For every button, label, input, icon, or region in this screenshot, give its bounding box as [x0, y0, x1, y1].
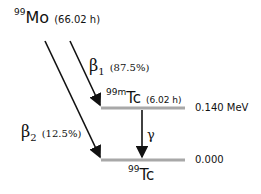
- gamma-label: γ: [147, 128, 155, 141]
- tc99-label: 99Tc: [128, 167, 154, 183]
- beta1-branch: (87.5%): [110, 62, 150, 73]
- tc99m-half-life: (6.02 h): [146, 95, 182, 105]
- beta2-label: β2 (12.5%): [21, 124, 81, 140]
- tc99-energy: 0.000: [195, 155, 224, 165]
- tc99m-energy: 0.140 MeV: [195, 103, 248, 113]
- mo99-label: 99Mo (66.02 h): [14, 10, 100, 26]
- beta1-label: β1 (87.5%): [89, 58, 149, 74]
- beta2-branch: (12.5%): [42, 128, 82, 139]
- tc99m-label: 99mTc (6.02 h): [106, 90, 182, 106]
- mo99-half-life: (66.02 h): [54, 14, 100, 25]
